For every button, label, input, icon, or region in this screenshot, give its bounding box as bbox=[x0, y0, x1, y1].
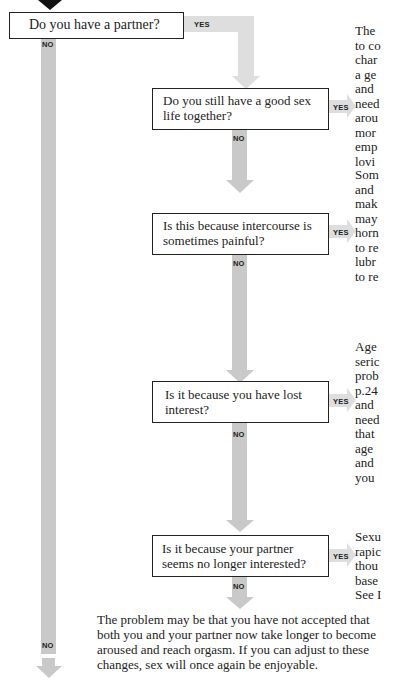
side-text-q5: Sexu rapic thou base See I bbox=[355, 530, 395, 603]
side-text-q4: Age seric prob p.24 and need that age an… bbox=[355, 340, 395, 485]
no-arrow-stem-bottom bbox=[42, 658, 55, 666]
yes-connector-q1-vertical bbox=[238, 16, 254, 76]
question-box-q1: Do you have a partner? bbox=[9, 12, 184, 39]
yes-label-q4: YES bbox=[333, 397, 349, 406]
no-arrow-q5-icon bbox=[226, 597, 254, 609]
question-box-q4: Is it because you have lost interest? bbox=[152, 381, 329, 423]
question-text: Is it because your partner seems no long… bbox=[162, 541, 306, 571]
question-text: Is it because you have lost interest? bbox=[165, 387, 302, 417]
down-arrow-icon bbox=[36, 666, 62, 678]
question-box-q5: Is it because your partner seems no long… bbox=[152, 535, 329, 577]
question-text: Do you have a partner? bbox=[29, 17, 160, 32]
side-text-q3: Som and mak may horn to re lubr to re bbox=[355, 168, 395, 284]
yes-label-q5: YES bbox=[333, 552, 349, 561]
no-arrow-q2-icon bbox=[226, 180, 254, 193]
no-label-q1: NO bbox=[42, 40, 54, 49]
side-text-q2: The to co char a ge and need arou mor em… bbox=[355, 24, 395, 169]
no-connector-main bbox=[41, 37, 56, 654]
no-label-bottom: NO bbox=[42, 641, 54, 650]
no-connector-q3 bbox=[232, 255, 247, 370]
question-text: Is this because intercourse is sometimes… bbox=[163, 218, 312, 248]
start-arrow-icon bbox=[38, 0, 62, 10]
question-text: Do you still have a good sex life togeth… bbox=[163, 93, 311, 123]
no-label-q4: NO bbox=[233, 430, 245, 439]
no-label-q2: NO bbox=[233, 134, 245, 143]
no-label-q3: NO bbox=[233, 259, 245, 268]
yes-label-q3: YES bbox=[333, 228, 349, 237]
question-box-q2: Do you still have a good sex life togeth… bbox=[152, 88, 329, 130]
yes-label-q1: YES bbox=[194, 20, 210, 29]
yes-label-q2: YES bbox=[333, 103, 349, 112]
conclusion-text: The problem may be that you have not acc… bbox=[97, 612, 395, 672]
no-arrow-q4-icon bbox=[226, 520, 254, 532]
no-label-q5: NO bbox=[233, 582, 245, 591]
question-box-q3: Is this because intercourse is sometimes… bbox=[152, 213, 329, 255]
